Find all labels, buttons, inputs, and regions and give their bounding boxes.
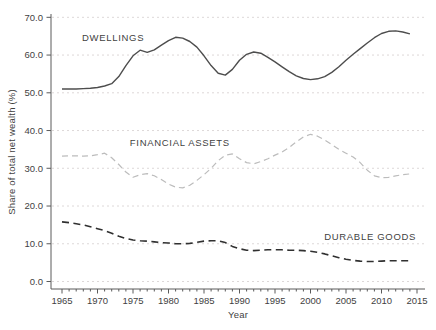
- financial-assets-line: [62, 134, 410, 188]
- x-tick-label: 2005: [335, 295, 356, 306]
- x-tick-label: 1990: [229, 295, 250, 306]
- x-tick-label: 1975: [122, 295, 143, 306]
- x-tick-label: 1985: [193, 295, 214, 306]
- y-axis-title: Share of total net wealth (%): [6, 89, 17, 215]
- y-tick-label: 40.0: [25, 125, 44, 136]
- y-tick-label: 70.0: [25, 12, 44, 23]
- durable-goods-line: [62, 222, 410, 262]
- y-tick-label: 0.0: [30, 276, 43, 287]
- y-tick-label: 50.0: [25, 87, 44, 98]
- plot-area: 0.010.020.030.040.050.060.070.0196519701…: [0, 0, 436, 330]
- x-axis-title: Year: [228, 309, 248, 320]
- x-tick-label: 1965: [51, 295, 72, 306]
- series-label-dwellings: DWELLINGS: [82, 32, 144, 43]
- x-tick-label: 2015: [406, 295, 427, 306]
- x-tick-label: 1980: [158, 295, 179, 306]
- y-tick-label: 30.0: [25, 163, 44, 174]
- x-tick-label: 1970: [87, 295, 108, 306]
- x-tick-label: 2010: [371, 295, 392, 306]
- y-tick-label: 10.0: [25, 238, 44, 249]
- y-tick-label: 20.0: [25, 200, 44, 211]
- y-tick-label: 60.0: [25, 49, 44, 60]
- series-label-financial-assets: FINANCIAL ASSETS: [130, 137, 230, 148]
- wealth-composition-chart: 0.010.020.030.040.050.060.070.0196519701…: [0, 0, 436, 330]
- x-tick-label: 1995: [264, 295, 285, 306]
- series-label-durable-goods: DURABLE GOODS: [324, 231, 416, 242]
- x-tick-label: 2000: [300, 295, 321, 306]
